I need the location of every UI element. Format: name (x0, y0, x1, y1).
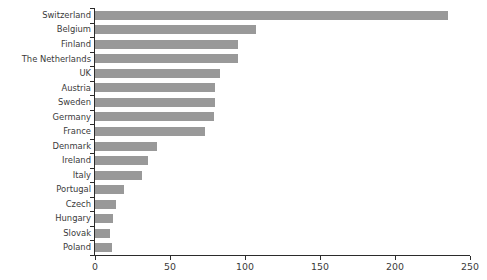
y-axis-tick (90, 23, 94, 24)
bar-fill (95, 69, 220, 78)
x-axis-tick-label: 0 (92, 261, 98, 272)
x-axis-line (94, 255, 470, 256)
bar-fill (95, 156, 148, 165)
plot-area (95, 8, 470, 255)
y-axis-tick (90, 182, 94, 183)
bar-portugal (95, 185, 124, 194)
x-axis-tick (320, 256, 321, 260)
category-label: UK (0, 69, 91, 78)
bar-fill (95, 98, 215, 107)
bar-fill (95, 229, 110, 238)
bar-czech (95, 200, 116, 209)
bar-fill (95, 185, 124, 194)
x-axis-tick (170, 256, 171, 260)
y-axis-tick (90, 52, 94, 53)
category-label: Hungary (0, 214, 91, 223)
category-label: Czech (0, 200, 91, 209)
bar-poland (95, 243, 112, 252)
category-label: Italy (0, 171, 91, 180)
category-label: Sweden (0, 98, 91, 107)
category-label: Portugal (0, 185, 91, 194)
category-label: France (0, 127, 91, 136)
bar-belgium (95, 25, 256, 34)
x-axis-tick-label: 100 (236, 261, 254, 272)
y-axis-tick (90, 66, 94, 67)
bar-fill (95, 214, 113, 223)
y-axis-tick (90, 81, 94, 82)
category-label: Ireland (0, 156, 91, 165)
y-axis-tick (90, 240, 94, 241)
x-axis-tick-label: 200 (386, 261, 404, 272)
bar-fill (95, 171, 142, 180)
x-axis-tick-label: 50 (164, 261, 176, 272)
category-axis-labels: SwitzerlandBelgiumFinlandThe Netherlands… (0, 8, 91, 255)
y-axis-tick (90, 197, 94, 198)
y-axis-tick (90, 110, 94, 111)
y-axis-tick (90, 226, 94, 227)
bar-the-netherlands (95, 54, 238, 63)
bar-sweden (95, 98, 215, 107)
bar-fill (95, 54, 238, 63)
y-axis-tick (90, 211, 94, 212)
bar-fill (95, 200, 116, 209)
category-label: The Netherlands (0, 55, 91, 64)
x-axis-tick (470, 256, 471, 260)
y-axis-tick (90, 153, 94, 154)
y-axis-tick (90, 95, 94, 96)
bar-fill (95, 243, 112, 252)
category-label: Germany (0, 113, 91, 122)
bar-slovak (95, 229, 110, 238)
y-axis-tick (90, 8, 94, 9)
y-axis-tick (90, 168, 94, 169)
category-label: Austria (0, 84, 91, 93)
bar-fill (95, 11, 448, 20)
x-axis-tick (395, 256, 396, 260)
bar-france (95, 127, 205, 136)
bar-uk (95, 69, 220, 78)
bar-switzerland (95, 11, 448, 20)
category-label: Slovak (0, 229, 91, 238)
bar-fill (95, 112, 214, 121)
y-axis-tick (90, 139, 94, 140)
bar-chart: SwitzerlandBelgiumFinlandThe Netherlands… (0, 0, 487, 280)
bar-italy (95, 171, 142, 180)
x-axis-tick (245, 256, 246, 260)
bar-fill (95, 83, 215, 92)
bar-germany (95, 112, 214, 121)
y-axis-tick (90, 255, 94, 256)
category-label: Finland (0, 40, 91, 49)
category-label: Belgium (0, 25, 91, 34)
bar-fill (95, 40, 238, 49)
category-label: Poland (0, 243, 91, 252)
bar-ireland (95, 156, 148, 165)
y-axis-tick (90, 124, 94, 125)
bar-finland (95, 40, 238, 49)
category-label: Denmark (0, 142, 91, 151)
x-axis-tick-label: 250 (461, 261, 479, 272)
x-axis-tick-label: 150 (311, 261, 329, 272)
bar-hungary (95, 214, 113, 223)
bar-austria (95, 83, 215, 92)
bar-denmark (95, 142, 157, 151)
bar-fill (95, 142, 157, 151)
bar-fill (95, 25, 256, 34)
bar-fill (95, 127, 205, 136)
y-axis-tick (90, 37, 94, 38)
category-label: Switzerland (0, 11, 91, 20)
y-axis-line (94, 8, 95, 255)
x-axis-tick (95, 256, 96, 260)
